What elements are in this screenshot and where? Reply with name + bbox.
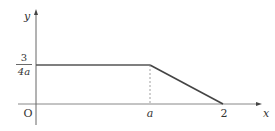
x-axis-label: x bbox=[263, 107, 270, 120]
graph-diagonal-segment bbox=[150, 65, 223, 104]
piecewise-graph: y x O a 2 3 4a bbox=[0, 0, 275, 131]
x-axis-arrow-icon bbox=[256, 102, 262, 106]
fraction-denominator: 4a bbox=[17, 66, 30, 77]
y-axis-label: y bbox=[23, 10, 31, 23]
origin-label: O bbox=[23, 107, 32, 120]
x-tick-a: a bbox=[147, 107, 154, 120]
y-axis-arrow-icon bbox=[34, 9, 38, 15]
y-tick-fraction: 3 4a bbox=[16, 52, 32, 77]
fraction-numerator: 3 bbox=[21, 52, 27, 63]
x-tick-2: 2 bbox=[221, 107, 228, 120]
